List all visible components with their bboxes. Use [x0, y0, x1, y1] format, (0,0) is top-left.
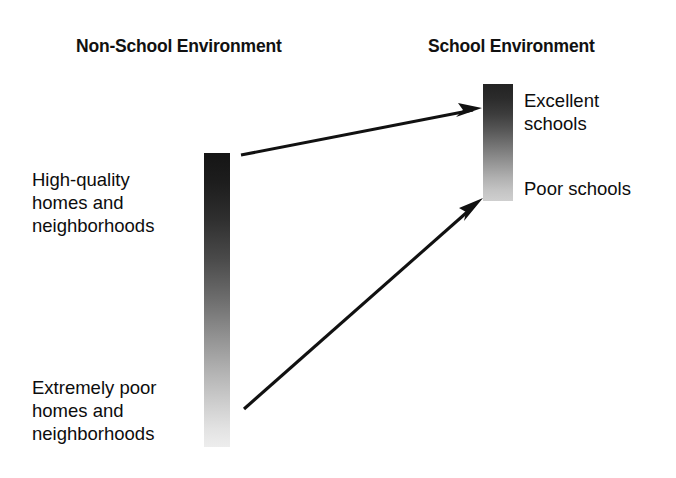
diagram-canvas: Non-School Environment School Environmen… — [0, 0, 676, 478]
arrow-layer — [0, 0, 676, 478]
arrow-shaft — [244, 206, 474, 409]
arrow-high-quality-to-excellent-schools — [241, 103, 482, 155]
arrow-head — [456, 103, 482, 117]
arrow-shaft — [241, 110, 473, 155]
arrow-extremely-poor-to-poor-schools — [244, 198, 483, 409]
